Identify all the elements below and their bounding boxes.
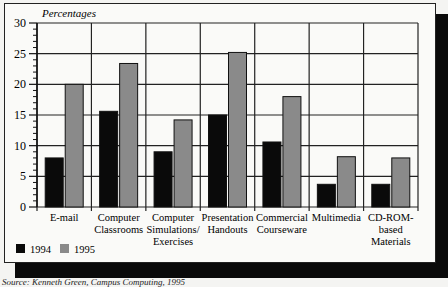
bar-1994 — [317, 184, 335, 207]
svg-text:20: 20 — [14, 77, 26, 91]
bar-1994 — [154, 152, 172, 207]
x-tick-label: Computer — [152, 212, 194, 223]
bar-1995 — [337, 157, 355, 207]
bar-1994 — [45, 158, 63, 207]
bar-1995 — [283, 97, 301, 207]
bars — [45, 52, 410, 207]
x-tick-label: Presentation — [202, 212, 255, 223]
x-tick-label: Courseware — [257, 224, 307, 235]
x-tick-label: Simulations/ — [147, 224, 200, 235]
bar-1995 — [120, 63, 138, 207]
svg-text:30: 30 — [14, 16, 26, 30]
x-tick-label: Handouts — [207, 224, 247, 235]
svg-text:1994: 1994 — [30, 244, 52, 255]
bar-1994 — [372, 184, 390, 207]
x-tick-label: Commercial — [256, 212, 308, 223]
svg-text:15: 15 — [14, 108, 26, 122]
svg-text:10: 10 — [14, 139, 26, 153]
bar-1995 — [65, 84, 83, 207]
bar-1995 — [174, 120, 192, 207]
x-tick-label: Materials — [371, 236, 411, 247]
bar-1994 — [100, 111, 118, 207]
bar-1994 — [209, 115, 227, 207]
source-caption: Source: Kenneth Green, Campus Computing,… — [2, 277, 185, 287]
bar-1995 — [229, 52, 247, 207]
x-tick-label: based — [379, 224, 404, 235]
x-axis-labels: E-mailComputerClassroomsComputerSimulati… — [50, 212, 414, 247]
x-tick-label: E-mail — [50, 212, 79, 223]
x-tick-label: Exercises — [153, 236, 193, 247]
bar-1995 — [392, 158, 410, 207]
x-tick-label: Computer — [98, 212, 140, 223]
svg-text:1995: 1995 — [74, 244, 95, 255]
legend: 19941995 — [16, 244, 95, 255]
x-tick-label: Classrooms — [94, 224, 143, 235]
x-tick-label: Multimedia — [312, 212, 361, 223]
bar-1994 — [263, 142, 281, 207]
y-axis-label: Percentages — [41, 7, 96, 19]
svg-text:0: 0 — [20, 200, 26, 214]
svg-text:5: 5 — [20, 169, 26, 183]
svg-text:25: 25 — [14, 47, 26, 61]
y-axis: 051015202530 — [14, 16, 37, 214]
x-tick-label: CD-ROM- — [368, 212, 414, 223]
gridlines — [37, 23, 418, 211]
